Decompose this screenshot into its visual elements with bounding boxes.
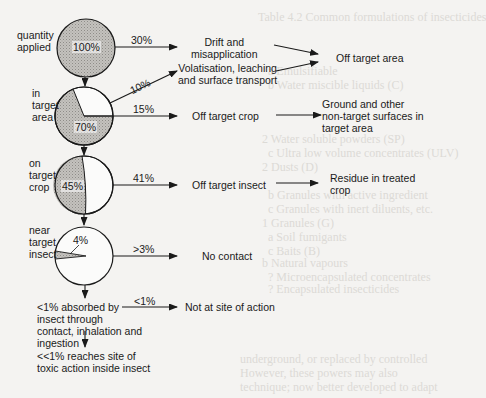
stage-label-on-target-crop: on target crop bbox=[29, 157, 56, 193]
dest-off-insect: Off target insect bbox=[192, 179, 266, 191]
dest-drift: Drift and misapplication bbox=[191, 36, 258, 60]
dest-not-at-site: Not at site of action bbox=[185, 301, 275, 313]
loss-percent-drift: 30% bbox=[131, 34, 152, 46]
dest-no-contact: No contact bbox=[202, 250, 252, 262]
pie-value-45: 45% bbox=[61, 180, 84, 192]
outcome-arrow bbox=[274, 45, 318, 54]
loss-percent-off-crop: 15% bbox=[133, 103, 154, 115]
outcome-residue: Residue in treated crop bbox=[330, 172, 415, 196]
dest-volatisation: Volatisation, leaching and surface trans… bbox=[178, 62, 277, 86]
outcome-arrow bbox=[276, 62, 318, 71]
loss-percent-not-at-site: <1% bbox=[134, 295, 155, 307]
pie-value-100: 100% bbox=[72, 41, 101, 53]
dest-off-crop: Off target crop bbox=[192, 110, 259, 122]
pie-value-4: 4% bbox=[73, 234, 88, 246]
stage-label-absorbed: <1% absorbed by insect through contact, … bbox=[37, 301, 142, 349]
pie-value-70: 70% bbox=[74, 121, 97, 133]
outcome-off-target-area: Off target area bbox=[336, 52, 404, 64]
stage-label-near-target-insect: near target insect bbox=[29, 224, 56, 260]
stage-label-in-target-area: in target area bbox=[32, 87, 59, 123]
outcome-ground-surfaces: Ground and other non-target surfaces in … bbox=[322, 98, 424, 134]
loss-percent-off-insect: 41% bbox=[133, 172, 154, 184]
loss-percent-no-contact: >3% bbox=[133, 243, 154, 255]
stage-label-quantity-applied: quantity applied bbox=[17, 29, 54, 53]
stage-label-reaches-site: <<1% reaches site of toxic action inside… bbox=[37, 350, 150, 374]
